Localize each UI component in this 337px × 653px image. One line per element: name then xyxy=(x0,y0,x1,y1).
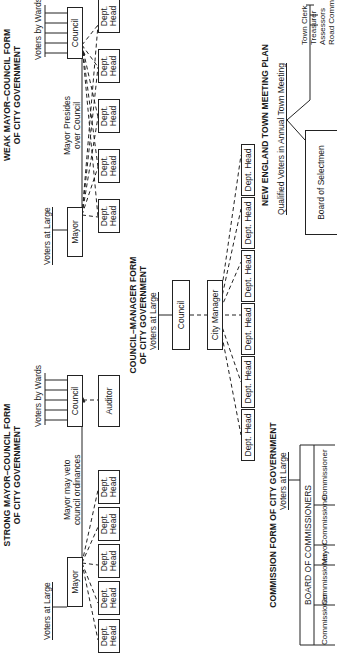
title-line: OF CITY GOVERNMENT xyxy=(12,385,22,565)
dept-head-box: Dept. Head xyxy=(98,49,120,83)
title-line: OF CITY GOVERNMENT xyxy=(12,5,22,185)
dept-head-box: Dept. Head xyxy=(241,250,255,302)
voters-by-wards-label: Voters by Wards xyxy=(33,0,43,60)
board-of-selectmen-box: Board of Selectmen xyxy=(305,130,337,235)
officer-assessors: Assessors xyxy=(318,0,327,45)
city-manager-box: City Manager xyxy=(207,280,223,350)
note-line: Mayor Presides xyxy=(62,96,72,155)
note-line: over Council xyxy=(72,96,82,155)
dept-head-box: Dept. Head xyxy=(98,149,120,183)
dept-head-box: Dept. Head xyxy=(98,581,120,615)
veto-note: Mayor may veto council ordinances xyxy=(62,455,82,525)
dept-head-box: Dept. Head xyxy=(241,409,255,461)
dept-head-box: Dept. Head xyxy=(241,356,255,408)
dept-head-box: Dept. Head xyxy=(241,144,255,196)
town-officers-list: Town Clerk Treasurer Assessors Road Comm… xyxy=(300,0,336,45)
dept-head-box: Dept. Head xyxy=(98,507,120,541)
board-of-commissioners-label: BOARD OF COMMISSIONERS xyxy=(303,485,313,605)
member-commissioner: Commissioner xyxy=(320,445,330,505)
title-line: WEAK MAYOR–COUNCIL FORM xyxy=(2,5,12,185)
new-england-title: NEW ENGLAND TOWN MEETING PLAN xyxy=(260,15,270,235)
mayor-box: Mayor xyxy=(67,207,83,257)
voters-by-wards-label: Voters by Wards xyxy=(33,365,43,427)
note-line: council ordinances xyxy=(72,455,82,525)
member-commissioner: Commissioner xyxy=(320,605,330,645)
voters-at-large-label: Voters at Large xyxy=(42,582,53,640)
auditor-box: Auditor xyxy=(98,375,120,427)
qualified-voters-label: Qualified Voters in Annual Town Meeting xyxy=(276,63,287,215)
voters-at-large-label: Voters at Large xyxy=(148,292,159,350)
officer-treasurer: Treasurer xyxy=(309,0,318,45)
council-box: Council xyxy=(172,280,190,350)
officer-town-clerk: Town Clerk xyxy=(300,0,309,45)
weak-mayor-title: WEAK MAYOR–COUNCIL FORM OF CITY GOVERNME… xyxy=(2,5,22,185)
title-line: OF CITY GOVERNMENT xyxy=(138,225,148,405)
dept-head-box: Dept. Head xyxy=(98,199,120,233)
voters-at-large-label: Voters at Large xyxy=(42,207,53,265)
member-commissioner: Commissioner xyxy=(320,505,330,545)
council-manager-title: COUNCIL–MANAGER FORM OF CITY GOVERNMENT xyxy=(128,225,148,405)
dept-head-box: Dept. Head xyxy=(98,0,120,33)
member-mayor: Mayor xyxy=(320,545,330,565)
officer-road-commissioner: Road Commissioner xyxy=(327,0,336,45)
note-line: Mayor may veto xyxy=(62,455,72,525)
title-line: COUNCIL–MANAGER FORM xyxy=(128,225,138,405)
presides-note: Mayor Presides over Council xyxy=(62,96,82,155)
dept-head-box: Dept. Head xyxy=(241,303,255,355)
council-box: Council xyxy=(67,7,83,59)
strong-mayor-title: STRONG MAYOR–COUNCIL FORM OF CITY GOVERN… xyxy=(2,385,22,565)
dept-head-box: Dept. Head xyxy=(241,197,255,249)
dept-head-box: Dept. Head xyxy=(98,544,120,578)
commission-title: COMMISSION FORM OF CITY GOVERNMENT xyxy=(268,405,278,625)
dept-head-box: Dept. Head xyxy=(98,470,120,504)
dept-head-box: Dept. Head xyxy=(98,99,120,133)
voters-at-large-label: Voters at Large xyxy=(278,452,289,510)
council-box: Council xyxy=(67,375,83,427)
title-line: STRONG MAYOR–COUNCIL FORM xyxy=(2,385,12,565)
mayor-box: Mayor xyxy=(67,557,83,607)
dept-head-box: Dept. Head xyxy=(98,619,120,653)
member-commissioner: Commissioner xyxy=(320,565,330,605)
